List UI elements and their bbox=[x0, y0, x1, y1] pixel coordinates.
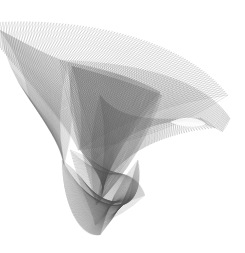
ribbon-lines-group bbox=[0, 22, 230, 236]
string-art-ribbon-graphic bbox=[0, 0, 245, 253]
artwork-canvas: Abstract string-art ribbon surface rende… bbox=[0, 0, 245, 253]
